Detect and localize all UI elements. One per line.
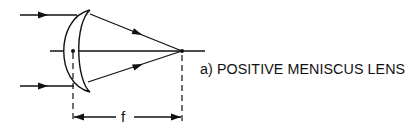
refracted-ray-top xyxy=(90,14,182,51)
principal-point xyxy=(71,49,75,53)
incoming-ray-bottom xyxy=(20,83,74,90)
incoming-ray-top xyxy=(20,12,77,19)
focal-length-label: f xyxy=(121,108,125,125)
refracted-ray-bottom xyxy=(88,51,182,82)
diagram-caption: a) POSITIVE MENISCUS LENS xyxy=(200,60,405,78)
focal-length-dimension xyxy=(74,114,181,121)
focal-point xyxy=(180,49,184,53)
